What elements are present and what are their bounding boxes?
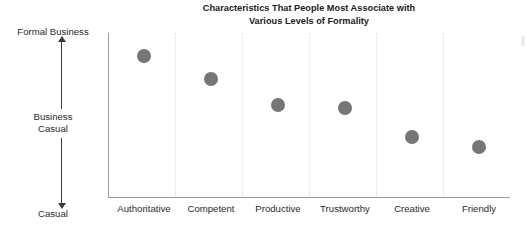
scale-label-casual: Casual: [0, 208, 106, 220]
chart-figure: Characteristics That People Most Associa…: [0, 0, 527, 229]
scale-label-business-casual: Business Casual: [0, 111, 106, 134]
data-point[interactable]: [338, 101, 352, 115]
edge-artifact: [521, 36, 525, 46]
scale-arrow-lower-shaft: [61, 138, 62, 206]
x-axis-label-trustworthy: Trustworthy: [320, 203, 370, 215]
formality-scale-axis: Formal Business Business Casual Casual: [0, 26, 106, 224]
x-axis-labels: AuthoritativeCompetentProductiveTrustwor…: [108, 203, 510, 223]
data-point[interactable]: [204, 72, 218, 86]
data-point[interactable]: [271, 98, 285, 112]
gridline: [376, 33, 378, 197]
x-axis-line: [108, 197, 510, 198]
gridline: [175, 33, 177, 197]
scale-label-formal-business: Formal Business: [0, 26, 106, 38]
x-axis-label-creative: Creative: [394, 203, 430, 215]
gridline: [242, 33, 244, 197]
x-axis-label-friendly: Friendly: [462, 203, 496, 215]
x-axis-label-authoritative: Authoritative: [117, 203, 170, 215]
data-point[interactable]: [405, 130, 419, 144]
plot-area: [108, 33, 510, 198]
y-axis-line: [108, 33, 109, 198]
data-point[interactable]: [137, 49, 151, 63]
gridline: [309, 33, 311, 197]
chart-title: Characteristics That People Most Associa…: [108, 2, 510, 27]
x-axis-label-productive: Productive: [255, 203, 300, 215]
gridline: [443, 33, 445, 197]
scale-arrow-upper-shaft: [61, 41, 62, 109]
data-point[interactable]: [472, 140, 486, 154]
x-axis-label-competent: Competent: [188, 203, 235, 215]
